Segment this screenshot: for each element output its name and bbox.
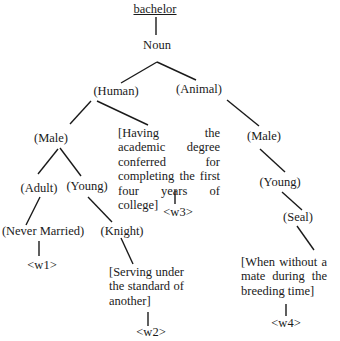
edge-noun-human [121, 62, 157, 83]
edge-noun-animal [157, 62, 196, 80]
sense-w4: <w4> [271, 316, 300, 331]
gloss-knight: [Serving under the standard of another] [109, 265, 184, 308]
pos-noun: Noun [143, 38, 171, 52]
sense-w1: <w1> [27, 258, 56, 273]
root-word: bachelor [133, 2, 176, 16]
edge-animal-male [227, 100, 259, 126]
edge-young-seal [282, 192, 302, 210]
edge-seal-when [297, 226, 314, 250]
gloss-academic: [Having the academic degree conferred fo… [118, 126, 220, 212]
edge-human-male [70, 101, 91, 124]
node-male-human: (Male) [34, 131, 68, 145]
sense-w3: <w3> [163, 205, 192, 220]
node-seal: (Seal) [283, 210, 313, 224]
edge-knight-serving [121, 238, 133, 264]
edge-male-young-animal [260, 149, 285, 172]
gloss-seal: [When without a mate during the breeding… [241, 255, 327, 298]
edge-young-knight [88, 197, 112, 222]
node-never-married: (Never Married) [2, 224, 84, 238]
edge-human-academic [97, 101, 148, 125]
node-male-animal: (Male) [247, 129, 281, 143]
node-young-human: (Young) [66, 179, 107, 193]
edge-male-adult [38, 149, 58, 174]
node-animal: (Animal) [176, 82, 222, 96]
node-knight: (Knight) [100, 224, 143, 238]
node-human: (Human) [93, 84, 138, 98]
edge-male-young [60, 148, 81, 176]
edge-adult-never-married [26, 197, 40, 225]
node-adult: (Adult) [21, 181, 58, 195]
sense-w2: <w2> [136, 325, 165, 340]
node-young-animal: (Young) [259, 175, 300, 189]
